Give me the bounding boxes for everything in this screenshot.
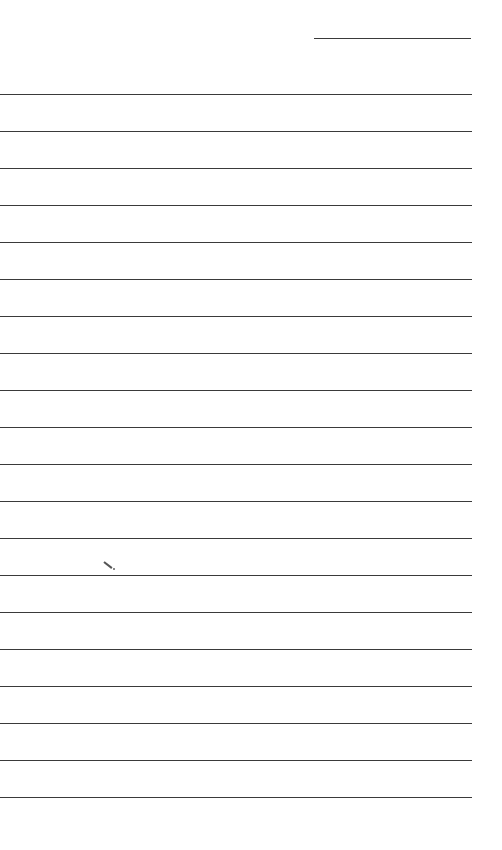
ruled-line — [0, 316, 472, 317]
ruled-line — [0, 575, 472, 576]
ruled-line — [0, 390, 472, 391]
ruled-line — [0, 464, 472, 465]
ruled-line — [0, 649, 472, 650]
ruled-line — [0, 427, 472, 428]
ruled-line — [0, 131, 472, 132]
stray-pen-mark — [103, 561, 112, 569]
ruled-line — [0, 205, 472, 206]
ruled-line — [0, 501, 472, 502]
ruled-line — [0, 538, 472, 539]
ruled-line — [0, 168, 472, 169]
ruled-line — [0, 94, 472, 95]
ruled-line — [0, 686, 472, 687]
ruled-line — [0, 279, 472, 280]
stray-pen-dot — [113, 568, 115, 570]
ruled-line — [0, 612, 472, 613]
ruled-line — [0, 242, 472, 243]
date-line — [314, 38, 471, 39]
ruled-line — [0, 797, 472, 798]
ruled-line — [0, 353, 472, 354]
ruled-line — [0, 723, 472, 724]
ruled-line — [0, 760, 472, 761]
